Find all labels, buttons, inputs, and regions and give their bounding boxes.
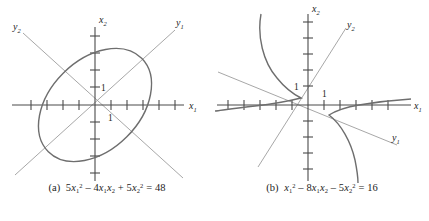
- guide-label-y1-a: y1: [175, 17, 184, 30]
- guide-label-y2-a: y2: [12, 21, 21, 34]
- y-axis-label-a: x2: [98, 14, 107, 27]
- caption-a-equation: 5x12 – 4x1x2 + 5x22 = 48: [63, 182, 165, 193]
- plot-b-svg: x1 x2 y2 y1 1 1: [215, 0, 429, 185]
- guide-label-y2-b: y2: [346, 19, 355, 32]
- plot-a-svg: x1 x2 y1 y2 1 1: [0, 0, 214, 185]
- panel-a: x1 x2 y1 y2 1 1 (a) 5x12 – 4x1x2 + 5x22 …: [0, 0, 214, 221]
- x-unit-label-a: 1: [108, 113, 113, 123]
- plot-a: x1 x2 y1 y2 1 1: [0, 0, 214, 185]
- x-axis-label-b: x1: [413, 100, 422, 113]
- y-unit-label-b: 1: [294, 82, 299, 92]
- x-axis-label-a: x1: [188, 100, 197, 113]
- plot-b: x1 x2 y2 y1 1 1: [215, 0, 429, 185]
- caption-a: (a) 5x12 – 4x1x2 + 5x22 = 48: [0, 182, 214, 193]
- y-axis-label-b: x2: [311, 3, 320, 16]
- panel-b: x1 x2 y2 y1 1 1 (b) x12 – 8x1x2 – 5x22 =…: [215, 0, 429, 221]
- caption-a-prefix: (a): [48, 182, 60, 193]
- caption-b: (b) x12 – 8x1x2 – 5x22 = 16: [215, 182, 429, 193]
- y-unit-label-a: 1: [101, 83, 106, 93]
- conic-sections-figure: x1 x2 y1 y2 1 1 (a) 5x12 – 4x1x2 + 5x22 …: [0, 0, 429, 221]
- caption-b-equation: x12 – 8x1x2 – 5x22 = 16: [281, 182, 377, 193]
- x-unit-label-b: 1: [322, 89, 327, 99]
- guide-line-y2-b: [258, 28, 346, 167]
- caption-b-prefix: (b): [266, 182, 279, 193]
- hyperbola-branch-left-b: [215, 14, 301, 111]
